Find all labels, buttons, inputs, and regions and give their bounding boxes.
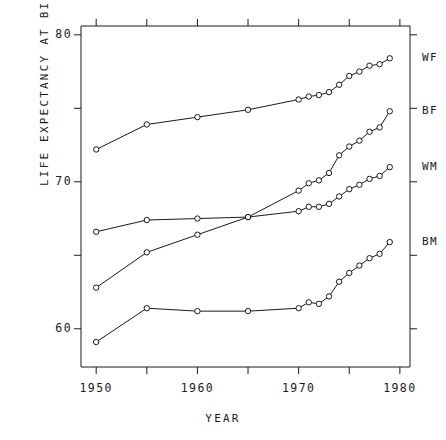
series-label-bm: BM: [422, 235, 438, 248]
x-tick-label-1960: 1960: [167, 381, 227, 395]
y-axis-title: LIFE EXPECTANCY AT BIRTH (YEARS): [38, 0, 51, 186]
chart-figure: 80 70 60 1950 1960 1970 1980 LIFE EXPECT…: [0, 0, 446, 440]
series-bf: [93, 109, 392, 291]
series-bm: [93, 239, 392, 344]
series-label-wf: WF: [422, 51, 438, 64]
line-chart-canvas: [0, 0, 446, 440]
x-axis-title: YEAR: [0, 412, 446, 425]
series-label-wm: WM: [422, 160, 438, 173]
x-tick-label-1980: 1980: [370, 381, 430, 395]
axes-frame: [81, 26, 410, 367]
x-tick-label-1970: 1970: [269, 381, 329, 395]
series-wm: [93, 164, 392, 234]
series-wf: [93, 56, 392, 153]
axis-ticks: [74, 19, 417, 374]
series-label-bf: BF: [422, 104, 438, 117]
data-series-group: [93, 56, 392, 345]
x-tick-label-1950: 1950: [66, 381, 126, 395]
y-tick-label-60: 60: [40, 321, 72, 335]
